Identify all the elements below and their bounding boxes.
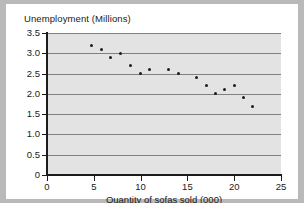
- y-axis-title: Unemployment (Millions): [24, 13, 131, 24]
- data-point: [195, 76, 198, 79]
- plot-area: [47, 33, 281, 175]
- gridline: [47, 33, 281, 34]
- gridline: [47, 155, 281, 156]
- y-tick-mark: [42, 33, 47, 34]
- data-point: [90, 44, 93, 47]
- y-tick-mark: [42, 134, 47, 135]
- data-point: [251, 105, 254, 108]
- gridline: [47, 134, 281, 135]
- x-axis-line: [46, 174, 282, 176]
- screenshot-root: Unemployment (Millions) 00.51.01.52.02.5…: [0, 0, 304, 203]
- x-tick-label: 25: [269, 182, 293, 192]
- y-tick-label: 2.0: [6, 89, 40, 99]
- x-tick-label: 20: [222, 182, 246, 192]
- data-point: [233, 84, 236, 87]
- data-point: [109, 56, 112, 59]
- y-tick-label: 3.0: [6, 48, 40, 58]
- y-tick-label: 0.5: [6, 150, 40, 160]
- gridline: [47, 114, 281, 115]
- gridline: [47, 94, 281, 95]
- y-tick-label: 0: [6, 170, 40, 180]
- gridline: [47, 74, 281, 75]
- y-tick-label: 3.5: [6, 28, 40, 38]
- data-point: [119, 52, 122, 55]
- y-tick-mark: [42, 155, 47, 156]
- data-point: [148, 68, 151, 71]
- y-tick-label: 1.5: [6, 109, 40, 119]
- data-point: [100, 48, 103, 51]
- x-tick-label: 10: [129, 182, 153, 192]
- y-tick-mark: [42, 74, 47, 75]
- x-axis-title: Quantity of sofas sold (000): [47, 194, 281, 203]
- data-point: [223, 88, 226, 91]
- y-tick-mark: [42, 94, 47, 95]
- data-point: [139, 72, 142, 75]
- x-tick-label: 15: [175, 182, 199, 192]
- x-tick-label: 0: [35, 182, 59, 192]
- data-point: [177, 72, 180, 75]
- x-tick-label: 5: [82, 182, 106, 192]
- y-tick-label: 1.0: [6, 129, 40, 139]
- data-point: [129, 64, 132, 67]
- y-tick-mark: [42, 114, 47, 115]
- data-point: [167, 68, 170, 71]
- data-point: [214, 92, 217, 95]
- data-point: [205, 84, 208, 87]
- data-point: [242, 96, 245, 99]
- y-tick-mark: [42, 53, 47, 54]
- gridline: [47, 53, 281, 54]
- chart-card: Unemployment (Millions) 00.51.01.52.02.5…: [6, 4, 298, 199]
- y-tick-label: 2.5: [6, 69, 40, 79]
